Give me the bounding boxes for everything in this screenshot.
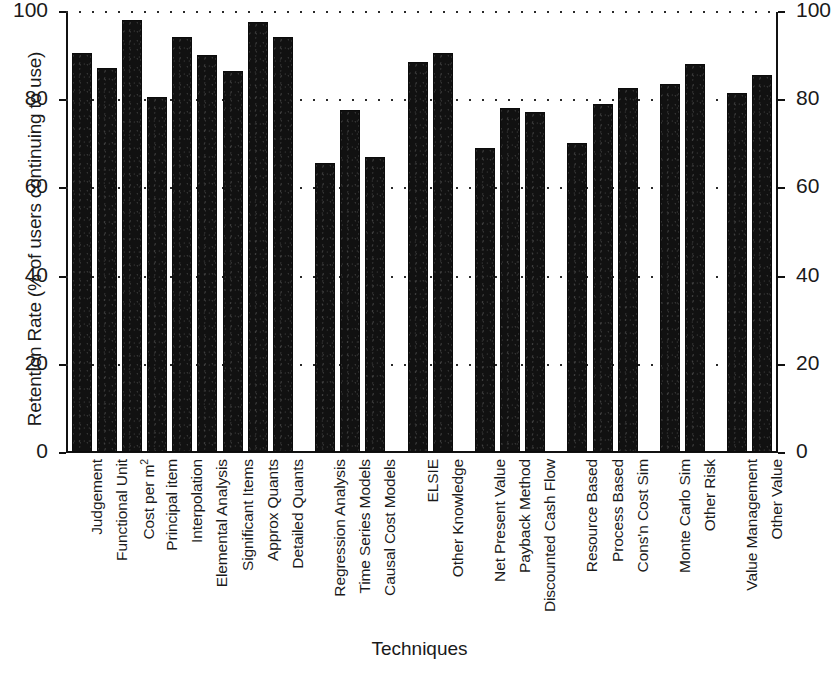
x-axis-title: Techniques	[0, 638, 839, 660]
x-axis-category-label: Regression Analysis	[331, 459, 349, 597]
x-axis-category-label: Approx Quants	[264, 459, 282, 561]
y-axis-left-tick-label: 60	[25, 174, 48, 198]
y-axis-left-tick: 0	[59, 452, 66, 454]
bar	[433, 53, 453, 452]
y-axis-right-tick-label: 80	[796, 86, 819, 110]
y-axis-right-line	[776, 12, 778, 453]
x-axis-category-label: Cons'n Cost Sim	[634, 459, 652, 572]
x-axis-category-label: Detailed Quants	[289, 459, 307, 569]
bar	[172, 37, 192, 452]
y-axis-left-line	[66, 12, 68, 453]
x-axis-category-label: Time Series Models	[356, 459, 374, 594]
y-axis-title: Retention Rate (% of users continuing to…	[24, 4, 46, 474]
bar	[408, 62, 428, 452]
x-axis-category-label: Functional Unit	[113, 459, 131, 561]
bar	[618, 88, 638, 452]
bar	[500, 108, 520, 452]
x-axis-category-label: Payback Method	[516, 459, 534, 573]
y-axis-left-tick-label: 80	[25, 86, 48, 110]
y-axis-left-tick-label: 20	[25, 351, 48, 375]
plot-area: 020406080100 020406080100	[66, 12, 778, 453]
y-axis-right-tick: 20	[778, 364, 785, 366]
bar	[97, 68, 117, 452]
y-axis-left-tick: 20	[59, 364, 66, 366]
y-axis-right-tick-label: 60	[796, 174, 819, 198]
x-axis-category-label: ELSIE	[424, 459, 442, 502]
x-axis-category-label: Significant Items	[239, 459, 257, 571]
x-axis-category-label: Cost per m2	[138, 459, 158, 540]
y-axis-right-tick: 80	[778, 99, 785, 101]
bar	[660, 84, 680, 452]
bar	[315, 163, 335, 452]
bar	[567, 143, 587, 452]
y-axis-right-tick: 60	[778, 187, 785, 189]
gridline	[66, 11, 778, 13]
x-axis-category-label: Discounted Cash Flow	[541, 459, 559, 612]
y-axis-left-tick: 60	[59, 187, 66, 189]
bar	[752, 75, 772, 452]
x-axis-category-label: Principal item	[163, 459, 181, 551]
bar	[122, 20, 142, 452]
x-axis-category-label: Elemental Analysis	[213, 459, 231, 587]
y-axis-left-tick-label: 40	[25, 263, 48, 287]
x-axis-category-label: Other Knowledge	[449, 459, 467, 577]
y-axis-right-tick-label: 100	[796, 0, 831, 22]
x-axis-category-label: Process Based	[609, 459, 627, 562]
bar	[223, 71, 243, 452]
x-axis-category-label: Judgement	[88, 459, 106, 535]
y-axis-left-tick: 80	[59, 99, 66, 101]
bar	[147, 97, 167, 452]
bar	[197, 55, 217, 452]
bar	[340, 110, 360, 452]
bar	[273, 37, 293, 452]
x-axis-category-label: Other Risk	[701, 459, 719, 531]
bar	[475, 148, 495, 452]
bar	[72, 53, 92, 452]
bar	[685, 64, 705, 452]
y-axis-right-tick: 0	[778, 452, 785, 454]
y-axis-right-tick-label: 40	[796, 263, 819, 287]
x-axis-category-label: Net Present Value	[491, 459, 509, 582]
x-axis-category-label: Monte Carlo Sim	[676, 459, 694, 573]
y-axis-right-tick: 40	[778, 276, 785, 278]
y-axis-left-tick-label: 0	[36, 439, 48, 463]
x-axis-category-label: Resource Based	[583, 459, 601, 572]
y-axis-right-tick: 100	[778, 11, 785, 13]
x-axis-category-label: Interpolation	[188, 459, 206, 543]
bar	[727, 93, 747, 452]
x-axis-category-label: Other Value	[768, 459, 786, 539]
x-axis-category-label: Value Management	[743, 459, 761, 591]
x-axis-category-label: Causal Cost Models	[381, 459, 399, 596]
bar	[248, 22, 268, 452]
y-axis-left-tick-label: 100	[13, 0, 48, 22]
y-axis-right-tick-label: 20	[796, 351, 819, 375]
bar-chart-figure: Retention Rate (% of users continuing to…	[0, 0, 839, 676]
y-axis-right-tick-label: 0	[796, 439, 808, 463]
y-axis-left-tick: 100	[59, 11, 66, 13]
bar	[525, 112, 545, 452]
bar	[593, 104, 613, 452]
y-axis-left-tick: 40	[59, 276, 66, 278]
bar	[365, 157, 385, 452]
